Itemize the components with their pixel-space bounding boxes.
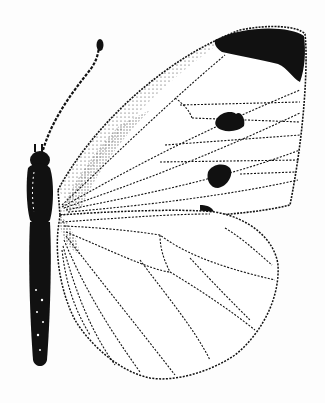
body [27, 144, 53, 366]
forewing [58, 27, 306, 236]
abdomen [29, 222, 51, 366]
thorax [27, 164, 53, 225]
butterfly-drawing [0, 0, 325, 403]
hindwing [57, 210, 278, 379]
butterfly-illustration [0, 0, 325, 403]
antenna [43, 39, 104, 150]
